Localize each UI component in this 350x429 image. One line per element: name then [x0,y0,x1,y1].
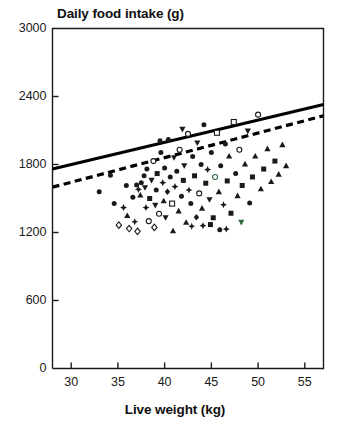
point-square-filled [250,174,255,179]
point-triangle-down-filled [238,220,244,226]
point-square-filled [208,222,213,227]
point-triangle-up-filled [268,178,274,184]
point-triangle-down-filled [206,197,212,203]
point-square-filled [228,211,233,216]
point-triangle-up-filled [176,208,182,214]
point-triangle-up-filled [258,186,264,192]
point-circle-filled [201,122,206,127]
point-triangle-up-filled [226,153,232,159]
point-circle-filled [217,227,222,232]
point-circle-filled [142,173,147,178]
y-tick-label: 2400 [3,90,47,103]
scatter-points-group [97,112,289,234]
point-triangle-down-filled [171,155,177,161]
point-diamond-open [126,225,131,231]
point-circle-filled [223,142,228,147]
point-square-filled [261,167,266,172]
point-triangle-up-filled [276,171,282,177]
point-square-open [214,130,219,135]
point-square-filled [240,183,245,188]
point-star [142,204,149,211]
point-circle-filled [158,150,163,155]
point-square-filled [211,215,216,220]
y-tick-label: 600 [3,294,47,307]
point-triangle-down-filled [179,127,185,133]
point-square-open [170,201,175,206]
x-tick-label: 35 [98,376,138,389]
point-square-open [231,120,236,125]
point-square-filled [272,159,277,164]
point-square-filled [203,181,208,186]
point-circle-filled [199,162,204,167]
point-star [120,204,127,211]
point-triangle-up-filled [283,163,289,169]
point-circle-filled [154,188,159,193]
point-star [188,223,195,230]
point-circle-filled [97,189,102,194]
point-triangle-up-filled [199,205,205,211]
point-circle-filled [218,163,223,168]
y-tick-label: 0 [3,362,47,375]
point-triangle-down-filled [142,185,148,191]
point-square-filled [225,178,230,183]
point-circle-open [186,131,191,136]
point-star [171,183,178,190]
point-triangle-up-filled [234,193,240,199]
point-circle-open [213,174,218,179]
point-circle-open [146,219,151,224]
point-circle-filled [162,165,167,170]
point-star [185,187,192,194]
point-circle-filled [168,174,173,179]
point-circle-filled [112,201,117,206]
point-circle-open [237,147,242,152]
point-circle-filled [108,173,113,178]
point-star [220,201,227,208]
x-axis-title: Live weight (kg) [0,402,350,417]
point-square-filled [147,196,152,201]
point-triangle-up-filled [137,192,143,198]
point-diamond-open [152,224,157,230]
point-circle-open [197,191,202,196]
point-star [159,179,166,186]
point-square-filled [181,178,186,183]
point-circle-filled [188,201,193,206]
chart-figure: Daily food intake (g) Live weight (kg) 0… [0,0,350,429]
point-triangle-down-filled [152,203,158,209]
point-circle-filled [139,180,144,185]
point-circle-filled [166,137,171,142]
point-star [204,166,211,173]
point-triangle-up-filled [124,212,130,218]
point-circle-filled [157,138,162,143]
point-triangle-up-filled [183,219,189,225]
point-star [223,226,230,233]
point-circle-filled [130,195,135,200]
point-triangle-up-filled [279,142,285,148]
point-star [131,218,138,225]
point-triangle-up-filled [264,146,270,152]
point-circle-filled [124,183,129,188]
x-tick-label: 30 [51,376,91,389]
point-triangle-up-filled [170,228,176,234]
x-tick-label: 55 [285,376,325,389]
point-diamond-open [135,228,140,234]
point-circle-filled [190,154,195,159]
y-tick-label: 1200 [3,226,47,239]
y-tick-label: 1800 [3,158,47,171]
point-star [199,222,206,229]
point-circle-filled [233,171,238,176]
plot-canvas [0,0,350,429]
point-circle-filled [144,167,149,172]
point-circle-filled [179,194,184,199]
point-circle-filled [209,150,214,155]
point-triangle-down-filled [245,129,251,135]
point-circle-open [151,159,156,164]
point-circle-open [157,211,162,216]
point-triangle-up-filled [252,153,258,159]
lower-dashed-line [53,116,324,187]
y-tick-label: 3000 [3,22,47,35]
point-circle-filled [174,169,179,174]
point-diamond-open [116,222,121,228]
x-tick-label: 40 [145,376,185,389]
point-square-filled [192,173,197,178]
point-triangle-up-filled [216,189,222,195]
